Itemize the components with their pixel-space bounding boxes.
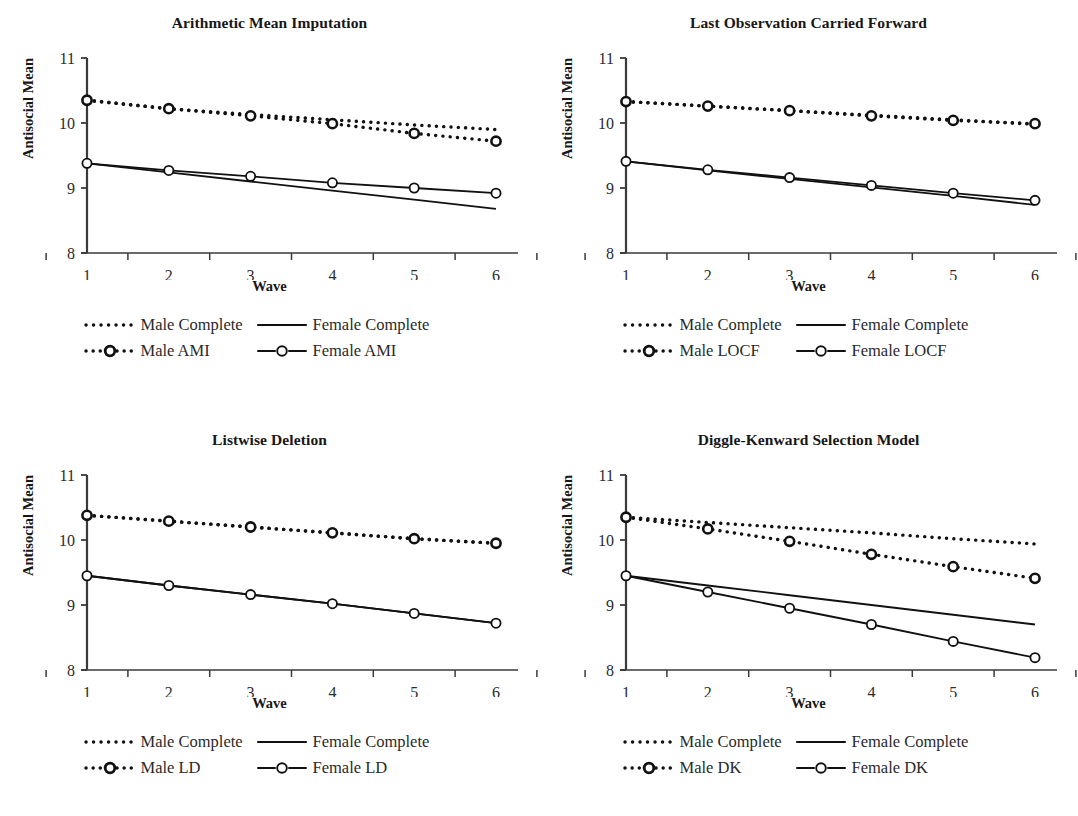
legend-key: [795, 343, 847, 359]
legend-row: Male CompleteFemale Complete: [0, 312, 539, 338]
legend: Male CompleteFemale CompleteMale AMIFema…: [0, 312, 539, 364]
legend-item-male-complete: Male Complete: [84, 312, 256, 338]
legend-item-male-dk: Male DK: [623, 755, 795, 781]
legend-item-male-ami: Male AMI: [84, 338, 256, 364]
legend-label: Male LOCF: [680, 341, 760, 361]
legend-item-female-ami: Female AMI: [256, 338, 456, 364]
legend-row: Male CompleteFemale Complete: [0, 729, 539, 755]
solid-line-key-icon: [795, 734, 847, 750]
panel-bottom-left: Listwise Deletion 891011123456 Antisocia…: [0, 417, 539, 816]
legend-label: Male AMI: [141, 341, 210, 361]
y-tick-label: 10: [59, 532, 75, 549]
series-male-dk: [621, 513, 1039, 583]
dotted-marker-line-key-icon: [623, 343, 675, 359]
y-tick-label: 9: [606, 597, 614, 614]
legend-key: [84, 734, 136, 750]
y-tick-label: 9: [606, 180, 614, 197]
y-axis-label: Antisocial Mean: [20, 19, 37, 199]
series-female-complete: [87, 163, 496, 209]
legend-key: [84, 343, 136, 359]
legend-key: [256, 343, 308, 359]
dotted-marker-line-key-icon: [623, 760, 675, 776]
x-axis-label: Wave: [539, 695, 1078, 712]
y-tick-label: 9: [67, 597, 75, 614]
legend-key: [795, 760, 847, 776]
y-tick-label: 10: [598, 115, 614, 132]
legend-label: Male Complete: [141, 315, 243, 335]
solid-marker-line-key-icon: [256, 760, 308, 776]
solid-line-key-icon: [256, 734, 308, 750]
legend-item-male-ld: Male LD: [84, 755, 256, 781]
legend-key: [623, 343, 675, 359]
plot-area: 891011123456: [539, 30, 1078, 280]
plot-area: 891011123456: [0, 30, 539, 280]
plot-area: 891011123456: [539, 447, 1078, 697]
solid-marker-line-key-icon: [795, 760, 847, 776]
legend-key: [623, 734, 675, 750]
legend-item-female-complete: Female Complete: [795, 729, 995, 755]
legend: Male CompleteFemale CompleteMale LOCFFem…: [539, 312, 1078, 364]
legend-label: Male Complete: [141, 732, 243, 752]
legend-key: [256, 734, 308, 750]
x-axis-label: Wave: [0, 278, 539, 295]
legend-key: [256, 317, 308, 333]
series-male-locf: [621, 97, 1039, 128]
legend-label: Female Complete: [313, 732, 430, 752]
legend-item-male-complete: Male Complete: [623, 729, 795, 755]
legend-label: Male DK: [680, 758, 742, 778]
y-tick-label: 8: [67, 662, 75, 679]
legend-row: Male LDFemale LD: [0, 755, 539, 781]
y-axis-label: Antisocial Mean: [559, 19, 576, 199]
plot-area: 891011123456: [0, 447, 539, 697]
legend-label: Male Complete: [680, 732, 782, 752]
dotted-line-key-icon: [623, 734, 675, 750]
legend-label: Female DK: [852, 758, 929, 778]
y-tick-label: 11: [60, 50, 75, 67]
legend-label: Female LOCF: [852, 341, 947, 361]
legend-key: [84, 317, 136, 333]
solid-line-key-icon: [795, 317, 847, 333]
dotted-line-key-icon: [623, 317, 675, 333]
legend: Male CompleteFemale CompleteMale LDFemal…: [0, 729, 539, 781]
legend-label: Female AMI: [313, 341, 397, 361]
y-tick-label: 8: [606, 662, 614, 679]
legend-item-female-locf: Female LOCF: [795, 338, 995, 364]
legend-label: Male LD: [141, 758, 201, 778]
series-male-ld: [82, 511, 500, 548]
legend-key: [623, 760, 675, 776]
dotted-line-key-icon: [84, 734, 136, 750]
legend-row: Male CompleteFemale Complete: [539, 312, 1078, 338]
legend-item-female-complete: Female Complete: [256, 312, 456, 338]
series-female-ld: [82, 571, 500, 628]
legend-item-female-dk: Female DK: [795, 755, 995, 781]
legend-key: [795, 317, 847, 333]
legend-item-male-complete: Male Complete: [623, 312, 795, 338]
legend-label: Female Complete: [852, 315, 969, 335]
series-male-complete: [87, 100, 496, 129]
legend-row: Male DKFemale DK: [539, 755, 1078, 781]
legend-label: Male Complete: [680, 315, 782, 335]
solid-line-key-icon: [256, 317, 308, 333]
x-axis-label: Wave: [0, 695, 539, 712]
legend-item-male-locf: Male LOCF: [623, 338, 795, 364]
y-tick-label: 11: [599, 50, 614, 67]
figure-multipanel-chart: Arithmetic Mean Imputation 891011123456 …: [0, 0, 1078, 816]
dotted-marker-line-key-icon: [84, 343, 136, 359]
legend-item-female-complete: Female Complete: [256, 729, 456, 755]
series-male-complete: [626, 517, 1035, 544]
dotted-marker-line-key-icon: [84, 760, 136, 776]
panel-top-left: Arithmetic Mean Imputation 891011123456 …: [0, 0, 539, 408]
y-tick-label: 10: [59, 115, 75, 132]
x-axis-label: Wave: [539, 278, 1078, 295]
legend-label: Female LD: [313, 758, 388, 778]
y-tick-label: 9: [67, 180, 75, 197]
y-axis-label: Antisocial Mean: [20, 436, 37, 616]
legend-row: Male LOCFFemale LOCF: [539, 338, 1078, 364]
legend-row: Male CompleteFemale Complete: [539, 729, 1078, 755]
legend-key: [795, 734, 847, 750]
solid-marker-line-key-icon: [256, 343, 308, 359]
dotted-line-key-icon: [84, 317, 136, 333]
y-tick-label: 8: [606, 245, 614, 262]
legend-key: [256, 760, 308, 776]
legend-item-male-complete: Male Complete: [84, 729, 256, 755]
